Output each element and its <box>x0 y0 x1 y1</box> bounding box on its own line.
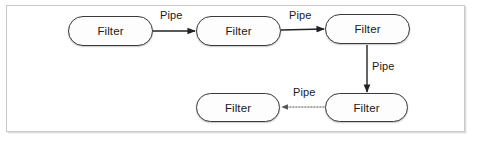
pipe-2-label: Pipe <box>289 9 311 21</box>
diagram-canvas: Filter Filter Filter Filter Filter Pipe … <box>0 0 479 143</box>
filter-node-2-label: Filter <box>225 25 251 37</box>
filter-node-2[interactable]: Filter <box>196 16 281 46</box>
filter-node-5[interactable]: Filter <box>196 93 280 122</box>
pipe-1-label: Pipe <box>160 9 182 21</box>
filter-node-3[interactable]: Filter <box>325 14 410 44</box>
filter-node-1[interactable]: Filter <box>68 16 153 46</box>
pipe-4-label: Pipe <box>293 86 315 98</box>
filter-node-4-label: Filter <box>353 102 379 114</box>
filter-node-3-label: Filter <box>354 23 380 35</box>
filter-node-1-label: Filter <box>97 25 123 37</box>
pipe-3-label: Pipe <box>372 60 394 72</box>
pipe-2-connector <box>281 29 324 30</box>
filter-node-5-label: Filter <box>225 102 251 114</box>
filter-node-4[interactable]: Filter <box>325 93 408 122</box>
